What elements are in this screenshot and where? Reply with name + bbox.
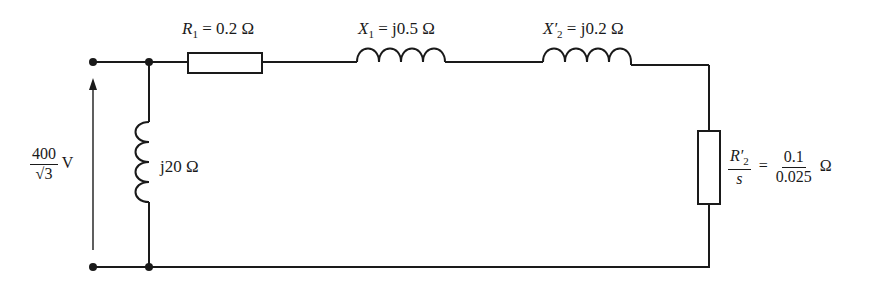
r1-label: R1 = 0.2 Ω [182,20,254,40]
x1-inductor [357,49,445,63]
junction-bottom [145,263,153,271]
r2s-den-symbol: s [736,170,742,188]
source-denominator: √3 [36,165,53,183]
xm-label: j20 Ω [160,158,199,175]
r1-value: = 0.2 Ω [202,19,254,38]
x2-symbol: X′ [543,19,557,38]
x1-value: = j0.5 Ω [378,19,435,38]
r2s-equals: = [759,157,768,174]
source-fraction: 400 √3 [30,146,58,183]
x1-symbol: X [358,19,368,38]
x2-label: X′2 = j0.2 Ω [543,20,624,40]
r1-resistor [188,53,262,73]
terminal-top [89,58,97,66]
xm-value: j20 Ω [160,157,199,176]
r2s-value-numerator: 0.1 [782,149,806,168]
r1-symbol: R [182,19,192,38]
x2-subscript: 2 [557,28,563,40]
x1-label: X1 = j0.5 Ω [358,20,435,40]
xm-inductor [136,122,150,202]
r2s-value-denominator: 0.025 [776,168,812,186]
voltage-arrow-head [89,78,97,90]
x2-inductor [543,49,631,63]
r2s-value-fraction: 0.1 0.025 [776,149,812,186]
r2s-label: R′2 s = 0.1 0.025 Ω [728,148,832,187]
r2s-resistor [698,131,720,204]
terminal-bottom [89,263,97,271]
r1-subscript: 1 [192,28,198,40]
r2s-unit: Ω [820,157,832,174]
source-unit: V [62,154,74,171]
circuit-wiring [0,0,880,282]
junction-top [145,58,153,66]
x1-subscript: 1 [368,28,374,40]
r2s-num-symbol: R′ [730,147,743,164]
r2s-symbol-fraction: R′2 s [728,148,751,187]
r2s-num-subscript: 2 [743,155,749,167]
source-label: 400 √3 V [30,146,73,183]
x2-value: = j0.2 Ω [567,19,624,38]
source-numerator: 400 [30,146,58,165]
